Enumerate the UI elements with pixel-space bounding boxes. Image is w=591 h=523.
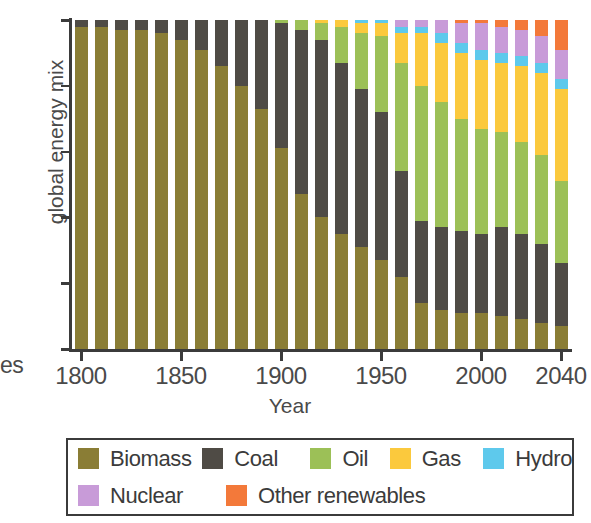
bar-segment [375, 23, 388, 36]
bar-segment [135, 30, 148, 349]
bar-segment [315, 23, 328, 39]
bar-segment [235, 20, 248, 86]
legend-label-biomass: Biomass [110, 446, 192, 472]
legend-label-gas: Gas [422, 446, 461, 472]
bar-segment [435, 43, 448, 102]
legend-swatch-oil [310, 448, 331, 469]
bar-segment [335, 27, 348, 63]
bar-segment [555, 326, 568, 349]
stacked-bar [495, 20, 508, 349]
bar-segment [435, 310, 448, 349]
bar-segment [495, 227, 508, 316]
stacked-bar [395, 20, 408, 349]
bar-segment [515, 66, 528, 142]
y-tick-mark [61, 216, 70, 219]
legend-row: NuclearOther renewables [68, 477, 572, 514]
bar-segment [495, 20, 508, 27]
bar-segment [195, 50, 208, 349]
stacked-bar [255, 20, 268, 349]
bar-segment [555, 89, 568, 181]
y-tick-mark [61, 282, 70, 285]
chart-legend: BiomassCoalOilGasHydroNuclearOther renew… [66, 438, 574, 516]
bar-segment [515, 30, 528, 56]
bar-segment [355, 23, 368, 33]
bar-segment [135, 20, 148, 30]
bar-segment [315, 40, 328, 218]
bar-segment [75, 20, 88, 27]
bar-segment [515, 319, 528, 349]
bar-segment [515, 142, 528, 234]
x-tick-label: 2040 [506, 362, 591, 390]
bar-segment [535, 63, 548, 73]
bar-segment [515, 234, 528, 320]
bar-segment [395, 277, 408, 349]
bar-segment [415, 221, 428, 303]
legend-label-nuclear: Nuclear [110, 483, 183, 509]
stacked-bar [375, 20, 388, 349]
legend-item-gas[interactable]: Gas [390, 446, 484, 472]
bar-segment [315, 217, 328, 349]
bar-segment [355, 33, 368, 89]
legend-item-oil[interactable]: Oil [310, 446, 389, 472]
bar-segment [535, 36, 548, 62]
bar-segment [235, 86, 248, 349]
bar-segment [475, 60, 488, 129]
bar-segment [555, 79, 568, 89]
legend-item-biomass[interactable]: Biomass [78, 446, 202, 472]
bar-segment [335, 63, 348, 234]
bar-segment [495, 63, 508, 132]
bar-segment [415, 86, 428, 221]
bar-segment [455, 53, 468, 119]
legend-item-nuclear[interactable]: Nuclear [78, 483, 226, 509]
legend-label-coal: Coal [234, 446, 278, 472]
bar-segment [355, 89, 368, 247]
x-tick-mark [280, 351, 283, 361]
bar-segment [115, 20, 128, 30]
bar-segment [175, 40, 188, 349]
bar-segment [535, 244, 548, 323]
bar-segment [455, 23, 468, 43]
bar-segment [395, 171, 408, 276]
bar-segment [555, 20, 568, 50]
bar-segment [275, 23, 288, 148]
bar-segment [395, 27, 408, 34]
bar-segment [535, 73, 548, 155]
bar-segment [275, 148, 288, 349]
y-tick-mark [61, 151, 70, 154]
legend-swatch-coal [202, 448, 223, 469]
legend-item-coal[interactable]: Coal [202, 446, 310, 472]
bar-segment [475, 234, 488, 313]
bar-segment [335, 234, 348, 349]
bar-segment [375, 112, 388, 260]
bar-segment [395, 63, 408, 172]
bar-segment [435, 227, 448, 309]
stacked-bar [415, 20, 428, 349]
bar-segment [115, 30, 128, 349]
stacked-bar [295, 20, 308, 349]
stacked-bar [535, 20, 548, 349]
legend-swatch-other_renewables [226, 485, 247, 506]
bar-segment [415, 303, 428, 349]
bar-segment [555, 181, 568, 263]
legend-item-hydro[interactable]: Hydro [483, 446, 572, 472]
legend-swatch-gas [390, 448, 411, 469]
x-tick-label: 1850 [126, 362, 236, 390]
stacked-bar [435, 20, 448, 349]
stacked-bar [275, 20, 288, 349]
x-tick-mark [380, 351, 383, 361]
bar-segment [255, 109, 268, 349]
bar-segment [415, 20, 428, 27]
stacked-bar [115, 20, 128, 349]
chart-plot-area [71, 20, 571, 349]
x-tick-mark [80, 351, 83, 361]
bar-segment [395, 33, 408, 63]
legend-item-other_renewables[interactable]: Other renewables [226, 483, 425, 509]
x-tick-mark [560, 351, 563, 361]
bar-segment [535, 20, 548, 36]
bar-segment [475, 23, 488, 49]
x-tick-label: 1950 [326, 362, 436, 390]
stacked-bar [175, 20, 188, 349]
stacked-bar [135, 20, 148, 349]
bar-segment [195, 20, 208, 50]
stacked-bar [555, 20, 568, 349]
